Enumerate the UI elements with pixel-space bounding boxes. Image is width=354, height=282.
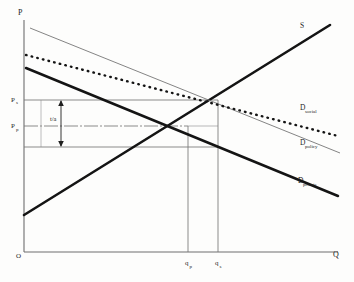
tax-wedge-arrowhead-bottom (58, 141, 64, 147)
supply-curve-label: S (300, 21, 304, 30)
demand-private-label-group: D private (298, 176, 318, 187)
demand-private-curve (26, 68, 338, 196)
demand-private-label-subscript: private (303, 182, 318, 187)
x-axis-label: Q (333, 250, 339, 259)
price-tick-pp-base: P (11, 122, 15, 130)
tax-wedge-arrowhead-top (58, 100, 64, 106)
quantity-tick-qs-base: q (215, 259, 219, 267)
price-tick-ps-group: P s (11, 96, 18, 105)
plot-canvas: P Q O t/a S (0, 0, 354, 282)
drop-lines-group (188, 100, 218, 252)
tax-wedge-label: t/a (50, 115, 57, 122)
tax-wedge-arrow (41, 100, 64, 147)
y-axis-label: P (18, 8, 23, 17)
quantity-tick-qs-subscript: s (220, 264, 222, 269)
price-tick-ps-subscript: s (16, 100, 18, 105)
demand-social-label-subscript: social (305, 109, 317, 114)
quantity-tick-qp-base: q (185, 259, 189, 267)
quantity-tick-qp-group: q p (185, 259, 193, 269)
demand-social-label-group: D social (300, 103, 317, 114)
economics-supply-demand-figure: P Q O t/a S (0, 0, 354, 282)
demand-social-curve (26, 55, 338, 136)
quantity-tick-qp-subscript: p (190, 264, 193, 269)
price-tick-pp-group: P p (11, 122, 19, 132)
axes-group (24, 20, 338, 252)
demand-policy-label-group: D policy (300, 138, 318, 149)
origin-label: O (16, 252, 21, 260)
quantity-tick-qs-group: q s (215, 259, 222, 269)
supply-curve (24, 25, 330, 215)
price-tick-pp-subscript: p (16, 127, 19, 132)
price-tick-ps-base: P (11, 96, 15, 104)
demand-policy-label-subscript: policy (305, 144, 318, 149)
